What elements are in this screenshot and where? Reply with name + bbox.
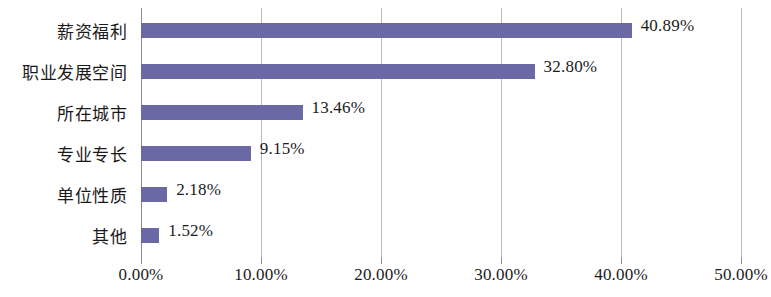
bar-value-label: 13.46%: [312, 98, 366, 118]
bar-value-label: 9.15%: [260, 139, 305, 159]
x-axis-tick-labels: 0.00%10.00%20.00%30.00%40.00%50.00%: [141, 265, 741, 293]
y-axis-category-label: 职业发展空间: [0, 51, 134, 92]
bar-row: 32.80%: [141, 51, 741, 92]
bar[interactable]: [141, 23, 632, 38]
x-axis-tick-label: 20.00%: [354, 265, 408, 285]
bar-value-label: 32.80%: [544, 57, 598, 77]
y-axis-category-label: 所在城市: [0, 92, 134, 133]
y-axis-category-label: 专业专长: [0, 133, 134, 174]
y-axis-category-label: 单位性质: [0, 174, 134, 215]
x-axis-tick: [741, 258, 742, 264]
y-axis-category-label: 其他: [0, 215, 134, 256]
bar-row: 40.89%: [141, 10, 741, 51]
bar-value-label: 1.52%: [168, 221, 213, 241]
x-axis-tick-label: 10.00%: [234, 265, 288, 285]
bar-value-label: 40.89%: [641, 16, 695, 36]
bar[interactable]: [141, 146, 251, 161]
bar[interactable]: [141, 187, 167, 202]
bar-value-label: 2.18%: [176, 180, 221, 200]
y-axis-category-label: 薪资福利: [0, 10, 134, 51]
bar-row: 2.18%: [141, 174, 741, 215]
bar[interactable]: [141, 228, 159, 243]
x-axis-tick-label: 50.00%: [714, 265, 768, 285]
x-axis-tick: [261, 258, 262, 264]
x-axis-tick-label: 0.00%: [119, 265, 164, 285]
gridline: [741, 8, 742, 258]
x-axis-tick: [501, 258, 502, 264]
bar[interactable]: [141, 105, 303, 120]
x-axis-tick-label: 30.00%: [474, 265, 528, 285]
bar-row: 13.46%: [141, 92, 741, 133]
bar-chart: 薪资福利职业发展空间所在城市专业专长单位性质其他 40.89%32.80%13.…: [0, 0, 771, 297]
x-axis-tick: [141, 258, 142, 264]
bar-row: 9.15%: [141, 133, 741, 174]
y-axis-category-labels: 薪资福利职业发展空间所在城市专业专长单位性质其他: [0, 8, 134, 258]
x-axis-tick: [621, 258, 622, 264]
x-axis-tick: [381, 258, 382, 264]
x-axis-tick-label: 40.00%: [594, 265, 648, 285]
bar[interactable]: [141, 64, 535, 79]
bar-row: 1.52%: [141, 215, 741, 256]
plot-area: 40.89%32.80%13.46%9.15%2.18%1.52%: [141, 8, 741, 258]
